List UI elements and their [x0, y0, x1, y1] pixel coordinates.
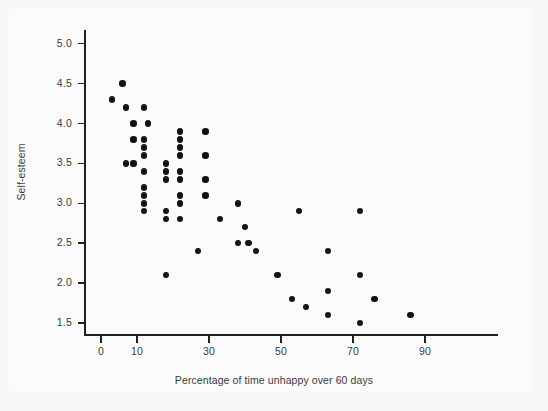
data-point [177, 176, 183, 182]
data-point [123, 160, 129, 166]
data-point [163, 160, 169, 166]
x-axis-line [84, 334, 498, 336]
data-point [407, 312, 413, 318]
data-point [202, 152, 208, 158]
data-point [130, 160, 136, 166]
data-point [325, 288, 331, 294]
y-tick-label-text: 4.0 [57, 117, 72, 129]
y-tick-mark [78, 163, 85, 165]
data-point [177, 144, 183, 150]
data-point [141, 144, 147, 150]
data-point [242, 224, 248, 230]
data-point [177, 152, 183, 158]
plot-area: 1.52.02.53.03.54.04.55.0 01030507090 Sel… [0, 0, 548, 411]
y-tick-mark [78, 322, 85, 324]
data-point [235, 240, 241, 246]
y-tick-label-text: 5.0 [57, 37, 72, 49]
data-point [245, 240, 251, 246]
data-point [177, 168, 183, 174]
y-tick-mark [78, 203, 85, 205]
data-point [357, 208, 363, 214]
x-tick-label: 90 [405, 345, 445, 357]
y-tick-label-text: 1.5 [57, 316, 72, 328]
data-point [217, 216, 223, 222]
data-point [202, 192, 208, 198]
data-point [141, 136, 147, 142]
x-tick-label: 50 [261, 345, 301, 357]
y-tick-label-text: 2.5 [57, 236, 72, 248]
data-point [195, 248, 201, 254]
data-point [177, 192, 183, 198]
x-tick-label: 0 [81, 345, 121, 357]
y-tick-mark [78, 83, 85, 85]
y-tick-mark [78, 123, 85, 125]
data-point [163, 176, 169, 182]
data-point [274, 272, 280, 278]
y-tick-label-text: 2.0 [57, 276, 72, 288]
x-tick-mark [208, 336, 210, 343]
x-axis-title: Percentage of time unhappy over 60 days [0, 374, 548, 386]
data-point [357, 272, 363, 278]
x-tick-mark [136, 336, 138, 343]
data-point [202, 128, 208, 134]
data-point [141, 200, 147, 206]
data-point [325, 312, 331, 318]
data-point [145, 120, 151, 126]
x-tick-label: 10 [117, 345, 157, 357]
data-point [119, 80, 125, 86]
data-point [177, 200, 183, 206]
x-tick-label: 30 [189, 345, 229, 357]
data-point [303, 304, 309, 310]
data-point [371, 296, 377, 302]
y-tick-mark [78, 43, 85, 45]
y-axis-line [84, 30, 86, 336]
data-point [289, 296, 295, 302]
data-point [141, 168, 147, 174]
data-point [163, 168, 169, 174]
data-point [141, 104, 147, 110]
x-tick-label: 70 [333, 345, 373, 357]
y-tick-label-text: 3.0 [57, 196, 72, 208]
data-point [163, 208, 169, 214]
x-tick-mark [352, 336, 354, 343]
x-tick-mark [100, 336, 102, 343]
data-point [163, 272, 169, 278]
data-point [141, 192, 147, 198]
data-point [177, 128, 183, 134]
data-point [296, 208, 302, 214]
data-point [325, 248, 331, 254]
data-point [141, 152, 147, 158]
data-point [357, 320, 363, 326]
x-tick-mark [280, 336, 282, 343]
data-point [130, 136, 136, 142]
data-point [177, 216, 183, 222]
y-tick-mark [78, 282, 85, 284]
data-point [163, 216, 169, 222]
x-tick-mark [424, 336, 426, 343]
y-tick-mark [78, 242, 85, 244]
data-point [141, 184, 147, 190]
data-point [109, 96, 115, 102]
y-tick-label-text: 3.5 [57, 156, 72, 168]
scatter-plot-figure: 1.52.02.53.03.54.04.55.0 01030507090 Sel… [0, 0, 548, 411]
data-point [177, 136, 183, 142]
data-point [235, 200, 241, 206]
data-point [253, 248, 259, 254]
data-point [202, 176, 208, 182]
y-tick-label-text: 4.5 [57, 77, 72, 89]
y-axis-title: Self-esteem [15, 127, 27, 217]
data-point [123, 104, 129, 110]
data-point [141, 208, 147, 214]
data-point [130, 120, 136, 126]
